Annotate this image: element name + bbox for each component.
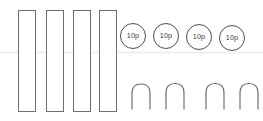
arch-4[interactable] bbox=[240, 84, 258, 110]
coin-4[interactable]: 10p bbox=[220, 26, 245, 51]
arch-3[interactable] bbox=[206, 84, 224, 110]
arch-1[interactable] bbox=[132, 84, 150, 109]
diagram-svg: 10p 10p 10p 10p bbox=[0, 0, 263, 121]
coin-group: 10p 10p 10p 10p bbox=[121, 24, 245, 51]
bar-2[interactable] bbox=[47, 11, 64, 112]
bar-4[interactable] bbox=[100, 11, 117, 112]
coin-1[interactable]: 10p bbox=[121, 24, 146, 49]
coin-2-label: 10p bbox=[160, 31, 172, 40]
coin-1-label: 10p bbox=[127, 31, 139, 40]
coin-3[interactable]: 10p bbox=[187, 25, 212, 50]
coin-4-label: 10p bbox=[226, 33, 238, 42]
bar-3[interactable] bbox=[74, 11, 91, 112]
arch-group bbox=[132, 84, 258, 110]
arch-2[interactable] bbox=[166, 84, 184, 110]
worksheet-canvas: 10p 10p 10p 10p bbox=[0, 0, 263, 121]
coin-2[interactable]: 10p bbox=[154, 24, 179, 49]
bar-1[interactable] bbox=[19, 11, 36, 112]
coin-3-label: 10p bbox=[193, 32, 205, 41]
bar-group bbox=[19, 11, 117, 112]
